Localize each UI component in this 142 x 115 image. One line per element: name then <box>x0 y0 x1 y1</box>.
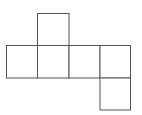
net-face-row-1 <box>7 46 38 79</box>
net-face-row-2 <box>38 46 70 79</box>
cube-net-diagram <box>0 0 142 115</box>
net-face-row-3 <box>69 46 100 79</box>
cube-net-faces <box>7 14 131 111</box>
net-face-row-4 <box>100 46 131 79</box>
net-face-bottom <box>100 78 131 110</box>
net-face-top <box>38 14 70 46</box>
